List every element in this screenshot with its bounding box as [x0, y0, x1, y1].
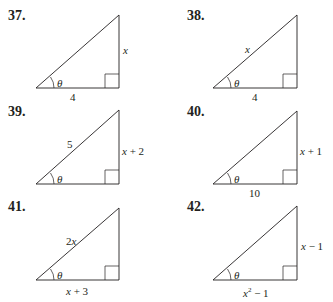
opposite-side-label: x − 1: [301, 241, 323, 252]
right-triangle: [0, 0, 333, 302]
angle-label: θ: [234, 270, 239, 281]
problem-42: 42. θ x − 1 x2 − 1: [0, 0, 333, 302]
adjacent-side-label: x2 − 1: [243, 287, 269, 299]
